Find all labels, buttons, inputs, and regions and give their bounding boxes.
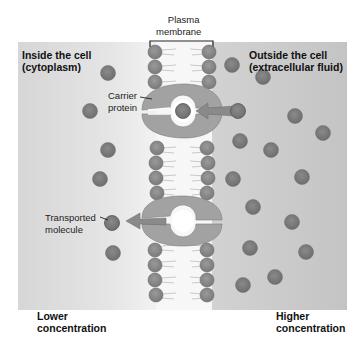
lower-concentration-label: Lower concentration	[37, 310, 106, 334]
transported-label-line1: Transported	[45, 212, 96, 224]
carrier-label-line2: protein	[108, 102, 137, 114]
carrier-label-line1: Carrier	[108, 90, 137, 102]
membrane-label-line2: membrane	[156, 26, 201, 38]
cytoplasm-region	[18, 42, 156, 310]
transported-molecule	[105, 216, 120, 231]
lower-label-line1: Lower	[37, 310, 106, 322]
molecule-approaching	[231, 104, 246, 119]
membrane-label: Plasma membrane	[166, 14, 201, 37]
outside-label-line1: Outside the cell	[249, 49, 343, 61]
inside-label-line1: Inside the cell	[22, 49, 91, 61]
transported-label-line2: molecule	[45, 224, 96, 236]
inside-cell-label: Inside the cell (cytoplasm)	[22, 49, 91, 73]
higher-label-line2: concentration	[276, 322, 345, 334]
molecule-in-carrier	[176, 104, 191, 119]
outside-cell-label: Outside the cell (extracellular fluid)	[249, 49, 343, 73]
lower-label-line2: concentration	[37, 322, 106, 334]
higher-concentration-label: Higher concentration	[276, 310, 345, 334]
outside-label-line2: (extracellular fluid)	[249, 61, 343, 73]
facilitated-diffusion-diagram: Plasma membrane Inside the cell (cytopla…	[0, 0, 361, 342]
transported-molecule-label: Transported molecule	[45, 212, 96, 235]
membrane-label-line1: Plasma	[166, 14, 201, 26]
carrier-protein-label: Carrier protein	[108, 90, 137, 113]
inside-label-line2: (cytoplasm)	[22, 61, 91, 73]
higher-label-line1: Higher	[276, 310, 345, 322]
